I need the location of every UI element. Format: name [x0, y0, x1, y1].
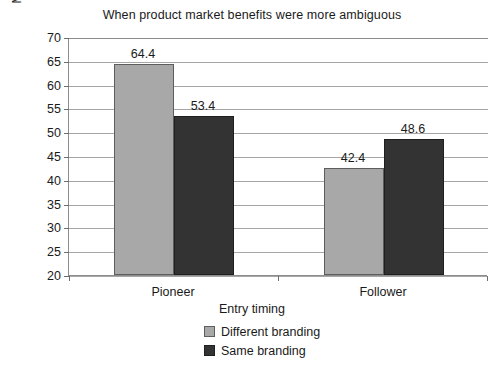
- chart-legend: Different brandingSame branding: [204, 322, 320, 360]
- y-tick-label: 30: [35, 222, 61, 234]
- y-tick-mark: [64, 157, 69, 158]
- y-tick-label: 55: [35, 103, 61, 115]
- x-axis-title: Entry timing: [0, 302, 504, 316]
- bar-value-label: 53.4: [173, 99, 233, 113]
- x-category-label: Follower: [323, 285, 443, 299]
- y-tick-label: 45: [35, 151, 61, 163]
- bar: [384, 139, 444, 275]
- gridline: [69, 38, 488, 39]
- bar-value-label: 42.4: [323, 151, 383, 165]
- y-tick-mark: [64, 109, 69, 110]
- bar: [174, 116, 234, 275]
- y-tick-mark: [64, 252, 69, 253]
- legend-label: Same branding: [221, 344, 306, 358]
- y-tick-mark: [64, 133, 69, 134]
- legend-item: Different branding: [204, 322, 320, 341]
- y-axis-title: Market share (%): [8, 0, 26, 74]
- y-tick-label: 25: [35, 246, 61, 258]
- x-tick-mark: [69, 276, 70, 281]
- bar-value-label: 48.6: [383, 122, 443, 136]
- y-tick-mark: [64, 62, 69, 63]
- bar-chart: When product market benefits were more a…: [0, 0, 504, 375]
- y-tick-label: 70: [35, 32, 61, 44]
- y-tick-label: 20: [35, 270, 61, 282]
- legend-swatch-icon: [204, 345, 215, 356]
- bar: [114, 64, 174, 275]
- y-tick-mark: [64, 205, 69, 206]
- bar: [324, 168, 384, 275]
- y-tick-mark: [64, 86, 69, 87]
- y-tick-label: 50: [35, 127, 61, 139]
- y-tick-label: 40: [35, 175, 61, 187]
- y-tick-label: 35: [35, 199, 61, 211]
- x-category-label: Pioneer: [113, 285, 233, 299]
- legend-label: Different branding: [221, 325, 320, 339]
- y-tick-label: 65: [35, 56, 61, 68]
- chart-title: When product market benefits were more a…: [0, 8, 504, 22]
- plot-area: [68, 38, 487, 276]
- legend-item: Same branding: [204, 341, 320, 360]
- x-tick-mark: [278, 276, 279, 281]
- gridline: [69, 62, 488, 63]
- y-tick-mark: [64, 228, 69, 229]
- legend-swatch-icon: [204, 326, 215, 337]
- x-tick-mark: [487, 276, 488, 281]
- y-tick-label: 60: [35, 80, 61, 92]
- bar-value-label: 64.4: [113, 47, 173, 61]
- y-tick-mark: [64, 181, 69, 182]
- y-tick-mark: [64, 38, 69, 39]
